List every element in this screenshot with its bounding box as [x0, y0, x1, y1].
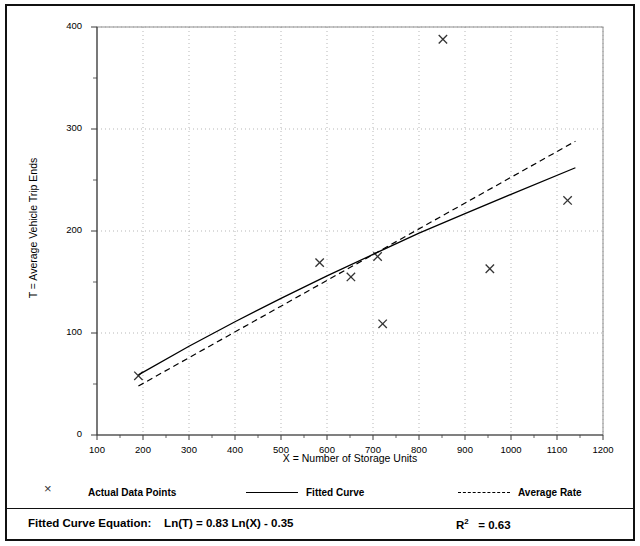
dashed-line-icon — [458, 486, 510, 498]
data-point-marker — [439, 35, 447, 43]
x-tick-label: 700 — [353, 444, 393, 455]
y-tick-label: 300 — [52, 122, 82, 133]
y-tick-label: 200 — [52, 224, 82, 235]
chart-canvas — [0, 0, 640, 546]
data-point-marker — [563, 196, 571, 204]
equation-label: Fitted Curve Equation: — [28, 517, 151, 529]
series-line-1 — [138, 168, 575, 375]
marker-x-icon — [28, 486, 80, 498]
r2-exponent: 2 — [464, 517, 468, 526]
x-tick-label: 200 — [123, 444, 163, 455]
x-tick-label: 800 — [399, 444, 439, 455]
fitted-curve-equation: Fitted Curve Equation: Ln(T) = 0.83 Ln(X… — [28, 517, 294, 529]
y-tick-label: 0 — [52, 428, 82, 439]
x-tick-label: 1100 — [537, 444, 577, 455]
r2-suffix: = 0.63 — [478, 519, 510, 531]
legend-item-actual-data-points: Actual Data Points — [28, 486, 176, 498]
x-tick-label: 300 — [169, 444, 209, 455]
legend-item-average-rate: Average Rate — [458, 486, 582, 498]
footer-divider — [7, 508, 633, 509]
y-axis-title: T = Average Vehicle Trip Ends — [27, 128, 39, 328]
r-squared-value: R2 = 0.63 — [456, 517, 511, 531]
x-tick-label: 100 — [77, 444, 117, 455]
equation-value: Ln(T) = 0.83 Ln(X) - 0.35 — [164, 517, 293, 529]
legend-label: Actual Data Points — [88, 487, 176, 498]
y-tick-label: 400 — [52, 20, 82, 31]
y-tick-label: 100 — [52, 326, 82, 337]
x-tick-label: 1200 — [583, 444, 623, 455]
x-tick-label: 600 — [307, 444, 347, 455]
footer-equation-row: Fitted Curve Equation: Ln(T) = 0.83 Ln(X… — [28, 514, 618, 538]
data-point-marker — [378, 320, 386, 328]
series-line-2 — [138, 141, 575, 386]
solid-line-icon — [246, 486, 298, 498]
legend-item-fitted-curve: Fitted Curve — [246, 486, 364, 498]
data-point-marker — [347, 273, 355, 281]
legend-label: Average Rate — [518, 487, 582, 498]
legend-label: Fitted Curve — [306, 487, 364, 498]
data-point-marker — [486, 265, 494, 273]
x-tick-label: 1000 — [491, 444, 531, 455]
x-tick-label: 500 — [261, 444, 301, 455]
chart-page: T = Average Vehicle Trip Ends X = Number… — [0, 0, 640, 546]
data-point-marker — [315, 258, 323, 266]
chart-legend: Actual Data Points Fitted Curve Average … — [28, 484, 618, 504]
x-tick-label: 400 — [215, 444, 255, 455]
x-tick-label: 900 — [445, 444, 485, 455]
